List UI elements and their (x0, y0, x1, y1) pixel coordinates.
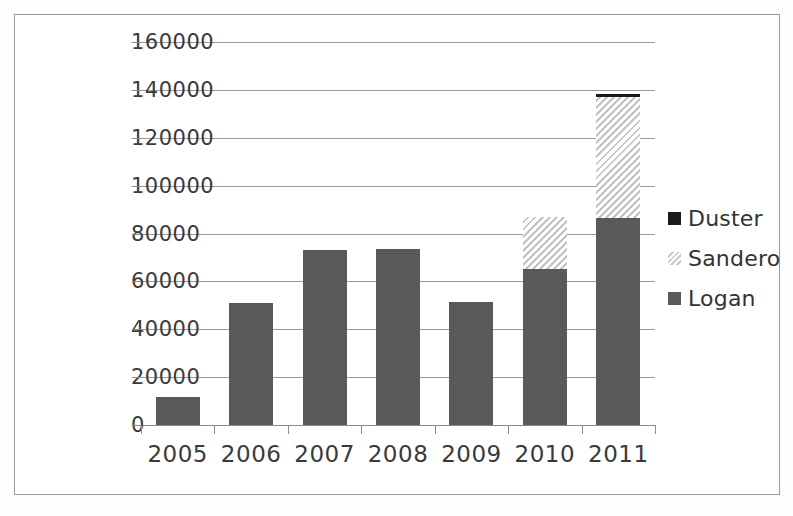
legend-label-sandero: Sandero (688, 246, 780, 271)
y-tick-0 (132, 425, 141, 426)
legend-label-duster: Duster (688, 206, 763, 231)
x-tick-label-2010: 2010 (515, 441, 576, 467)
x-tick-label-2009: 2009 (441, 441, 502, 467)
sandero-swatch-icon (668, 252, 681, 265)
x-tick-label-2006: 2006 (221, 441, 282, 467)
x-tick-label-2011: 2011 (588, 441, 649, 467)
legend-item-duster: Duster (668, 198, 786, 238)
legend-item-logan: Logan (668, 278, 786, 318)
chart-legend: DusterSanderoLogan (668, 198, 786, 318)
y-tick-160000 (132, 42, 141, 43)
legend-item-sandero: Sandero (668, 238, 786, 278)
y-tick-100000 (132, 186, 141, 187)
x-axis-line (141, 425, 655, 426)
legend-label-logan: Logan (688, 286, 756, 311)
bar-chart: 2005200620072008200920102011 DusterSande… (0, 0, 793, 516)
y-tick-120000 (132, 138, 141, 139)
x-tick-2 (288, 425, 289, 434)
x-tick-6 (582, 425, 583, 434)
y-tick-40000 (132, 329, 141, 330)
y-tick-80000 (132, 234, 141, 235)
x-tick-4 (435, 425, 436, 434)
x-tick-label-2007: 2007 (294, 441, 355, 467)
x-tick-label-2005: 2005 (147, 441, 208, 467)
y-tick-60000 (132, 281, 141, 282)
x-tick-0 (141, 425, 142, 434)
logan-swatch-icon (668, 292, 681, 305)
y-tick-20000 (132, 377, 141, 378)
y-tick-140000 (132, 90, 141, 91)
x-tick-3 (361, 425, 362, 434)
x-tick-1 (214, 425, 215, 434)
x-tick-label-2008: 2008 (368, 441, 429, 467)
chart-screenshot: 2005200620072008200920102011 DusterSande… (0, 0, 793, 516)
duster-swatch-icon (668, 212, 681, 225)
x-tick-7 (655, 425, 656, 434)
x-tick-5 (508, 425, 509, 434)
